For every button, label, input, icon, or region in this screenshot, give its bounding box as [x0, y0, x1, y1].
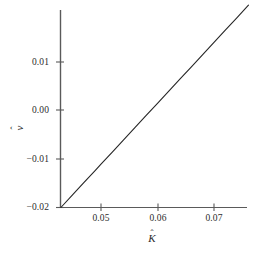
y-tick-label-1: 0.00: [8, 105, 49, 115]
data-series-line: [61, 5, 249, 207]
y-tick-label-0: 0.01: [8, 57, 49, 67]
x-tick-label-2: 0.07: [205, 213, 222, 223]
x-tick-label-0: 0.05: [92, 213, 109, 223]
y-axis-title-hat: ˆ: [10, 127, 19, 130]
y-axis-title: ˆ v: [13, 126, 25, 131]
y-tick-label-3: −0.02: [8, 202, 49, 212]
x-tick-label-1: 0.06: [149, 213, 166, 223]
chart-figure: 0.01 0.00 −0.01 −0.02 0.05 0.06 0.07 ˆ K…: [0, 0, 256, 258]
x-axis-title: ˆ K: [148, 232, 155, 244]
y-tick-label-2: −0.01: [8, 154, 49, 164]
x-axis-title-hat: ˆ: [150, 229, 153, 238]
